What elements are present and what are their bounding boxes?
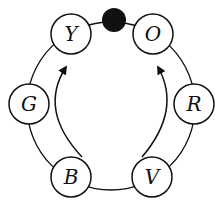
node-r: R	[174, 84, 214, 124]
color-wheel-diagram: Y O R V B G	[0, 0, 215, 209]
node-label: B	[63, 165, 79, 189]
node-y: Y	[51, 14, 91, 54]
node-v: V	[132, 157, 172, 197]
node-b: B	[51, 157, 91, 197]
node-label: V	[145, 165, 162, 189]
node-g: G	[9, 84, 49, 124]
arrow-b-to-y	[55, 67, 82, 157]
node-label: Y	[64, 22, 79, 46]
arrow-v-to-o	[142, 67, 167, 157]
node-label: R	[185, 92, 201, 116]
node-o: O	[133, 14, 173, 54]
top-marker-dot	[102, 8, 126, 32]
outer-ring	[27, 22, 195, 190]
node-label: O	[145, 22, 161, 46]
node-label: G	[21, 92, 37, 116]
